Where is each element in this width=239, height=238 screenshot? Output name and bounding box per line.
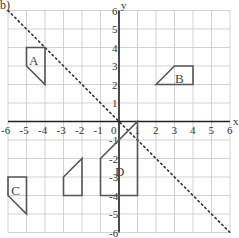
y-tick-label: 5: [112, 23, 118, 35]
y-tick-label: 2: [112, 79, 118, 91]
x-tick-label: 3: [172, 124, 178, 136]
shape-label: B: [175, 71, 184, 86]
x-tick-label: -3: [57, 124, 67, 136]
origin-label: 0: [111, 124, 117, 136]
y-tick-label: 1: [112, 97, 118, 109]
shape-label: D: [115, 164, 124, 179]
part-label: b): [0, 0, 10, 12]
y-tick-label: -1: [109, 134, 118, 146]
shape-label: A: [29, 53, 39, 68]
x-tick-label: -5: [20, 124, 30, 136]
x-axis-label: x: [233, 115, 239, 127]
y-tick-label: 3: [112, 60, 118, 72]
y-tick-label: -5: [109, 208, 119, 220]
x-tick-label: -4: [38, 124, 48, 136]
x-tick-label: 5: [209, 124, 215, 136]
axes: [8, 11, 230, 233]
y-tick-label: 6: [112, 5, 118, 17]
x-tick-label: -2: [75, 124, 84, 136]
coordinate-grid-figure: -6-5-4-3-2-1123456654321-1-2-3-4-5-6 ABC…: [0, 0, 239, 237]
x-tick-label: 2: [153, 124, 159, 136]
y-tick-label: 4: [112, 42, 118, 54]
y-tick-label: -6: [109, 227, 119, 238]
x-tick-label: 4: [190, 124, 196, 136]
x-tick-label: -1: [94, 124, 103, 136]
y-tick-label: -2: [109, 153, 118, 165]
shape-label: C: [11, 183, 20, 198]
y-axis-label: y: [121, 0, 127, 11]
x-tick-label: -6: [1, 124, 11, 136]
